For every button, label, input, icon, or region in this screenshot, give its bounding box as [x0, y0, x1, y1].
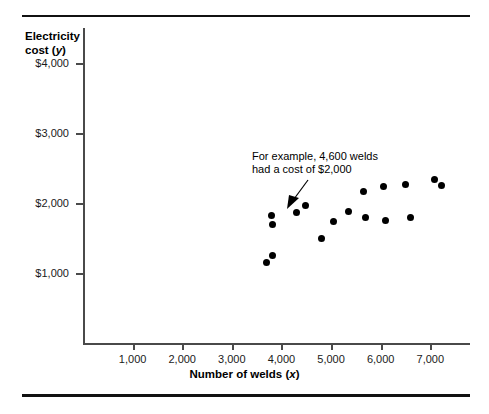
- scatter-point: [269, 252, 276, 259]
- x-tick-mark: [281, 343, 283, 350]
- scatter-point: [402, 181, 409, 188]
- x-tick-label: 6,000: [367, 353, 395, 365]
- annotation-arrow-icon: [283, 178, 311, 210]
- scatter-point: [407, 214, 414, 221]
- scatter-point: [438, 182, 445, 189]
- y-axis-title: Electricity cost (y): [25, 29, 80, 57]
- x-tick-label: 1,000: [119, 353, 147, 365]
- x-tick-mark: [331, 343, 333, 350]
- y-tick-label: $3,000: [5, 127, 69, 139]
- x-tick-label: 7,000: [417, 353, 445, 365]
- x-tick-mark: [381, 343, 383, 350]
- x-tick-label: 2,000: [168, 353, 196, 365]
- figure-container: Electricity cost (y) Number of welds (x)…: [0, 0, 489, 414]
- x-tick-label: 5,000: [317, 353, 345, 365]
- x-tick-label: 3,000: [218, 353, 246, 365]
- bottom-divider-rule: [22, 394, 470, 397]
- scatter-point: [380, 183, 387, 190]
- scatter-point: [318, 235, 325, 242]
- x-axis-line: [83, 343, 470, 345]
- x-tick-mark: [430, 343, 432, 350]
- y-tick-label: $4,000: [5, 57, 69, 69]
- x-tick-mark: [232, 343, 234, 350]
- x-axis-title: Number of welds (x): [0, 368, 489, 380]
- y-tick-mark: [76, 133, 84, 135]
- y-axis-title-line1: Electricity: [25, 29, 80, 43]
- scatter-point: [330, 218, 337, 225]
- y-tick-mark: [76, 273, 84, 275]
- annotation-line-2: had a cost of $2,000: [252, 163, 378, 176]
- y-tick-mark: [76, 203, 84, 205]
- x-tick-mark: [133, 343, 135, 350]
- scatter-point: [360, 188, 367, 195]
- annotation-line-1: For example, 4,600 welds: [252, 150, 378, 163]
- scatter-point: [345, 208, 352, 215]
- scatter-point: [263, 259, 270, 266]
- scatter-point: [431, 176, 438, 183]
- scatter-point: [269, 221, 276, 228]
- x-tick-label: 4,000: [268, 353, 296, 365]
- y-axis-title-line2: cost (y): [25, 43, 80, 57]
- scatter-point: [382, 217, 389, 224]
- example-annotation-text: For example, 4,600 welds had a cost of $…: [252, 150, 378, 176]
- y-tick-label: $2,000: [5, 197, 69, 209]
- y-axis-line: [83, 28, 85, 345]
- y-tick-mark: [76, 63, 84, 65]
- x-tick-mark: [182, 343, 184, 350]
- plot-area: $1,000$2,000$3,000$4,000 1,0002,0003,000…: [83, 28, 470, 345]
- y-tick-label: $1,000: [5, 267, 69, 279]
- scatter-point: [268, 212, 275, 219]
- top-divider-rule: [22, 15, 470, 17]
- scatter-point: [362, 214, 369, 221]
